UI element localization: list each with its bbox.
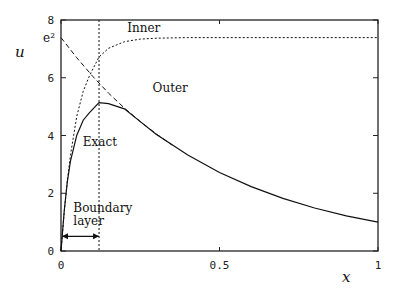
y-tick-label: 4	[47, 130, 54, 143]
y-axis-label: u	[15, 43, 25, 61]
annotations: InnerOuterExactBoundarylayer	[73, 21, 188, 228]
annotation-boundary: Boundary	[73, 201, 132, 215]
x-tick-label: 0.5	[210, 259, 230, 272]
x-tick-label: 0	[58, 259, 65, 272]
annotation-exact: Exact	[83, 135, 117, 149]
series-exact-line	[61, 103, 378, 251]
x-tick-label: 1	[375, 259, 382, 272]
y-tick-label: 8	[47, 14, 54, 27]
annotation-inner: Inner	[127, 21, 160, 35]
y-tick-label: 0	[47, 245, 54, 258]
arrow-right-icon	[93, 233, 99, 239]
boundary-layer-chart: 00.5102468e² InnerOuterExactBoundarylaye…	[0, 0, 399, 295]
y-tick-label: 6	[47, 72, 54, 85]
annotation-layer: layer	[73, 214, 104, 228]
annotation-outer: Outer	[153, 81, 188, 95]
y-tick-label: 2	[47, 187, 54, 200]
x-axis-label: x	[342, 268, 351, 286]
y-special-tick-label: e²	[43, 31, 55, 45]
